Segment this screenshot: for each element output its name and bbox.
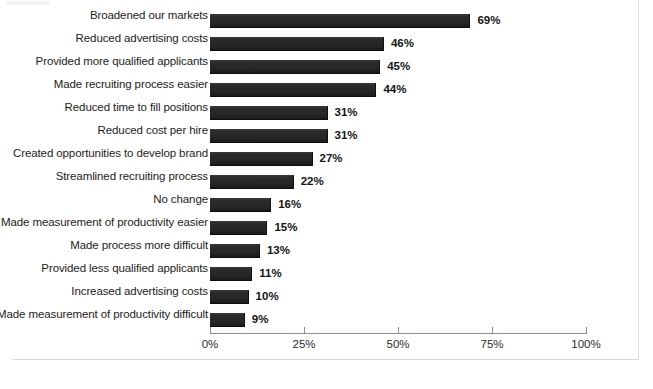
bar-value-label: 31%: [335, 106, 358, 119]
bar-row: Made measurement of productivity easier1…: [0, 215, 653, 238]
bar-row: Broadened our markets69%: [0, 8, 653, 31]
bar: [210, 152, 313, 165]
bar-value-label: 9%: [252, 313, 269, 326]
x-axis-tick-label: 100%: [571, 337, 600, 351]
bar-row: Provided more qualified applicants45%: [0, 54, 653, 77]
bar-row: Provided less qualified applicants11%: [0, 261, 653, 284]
bar: [210, 267, 252, 280]
x-axis-tick: [492, 327, 493, 334]
category-label: Reduced cost per hire: [0, 123, 208, 137]
category-label: Reduced advertising costs: [0, 31, 208, 45]
bar-value-label: 69%: [477, 14, 500, 27]
bar-value-label: 31%: [335, 129, 358, 142]
bar: [210, 244, 260, 257]
bar: [210, 221, 267, 234]
category-label: Provided more qualified applicants: [0, 54, 208, 68]
bar-value-label: 15%: [274, 221, 297, 234]
category-label: Made process more difficult: [0, 238, 208, 252]
category-label: Reduced time to fill positions: [0, 100, 208, 114]
bar: [210, 198, 271, 211]
x-axis-tick: [304, 327, 305, 334]
x-axis-tick-label: 0%: [202, 337, 219, 351]
bar-value-label: 22%: [301, 175, 324, 188]
bar-row: Made recruiting process easier44%: [0, 77, 653, 100]
bar-value-label: 46%: [391, 37, 414, 50]
bar-row: No change16%: [0, 192, 653, 215]
bar: [210, 106, 328, 119]
bar: [210, 37, 384, 50]
category-label: Increased advertising costs: [0, 284, 208, 298]
bar: [210, 175, 294, 188]
bar-row: Made process more difficult13%: [0, 238, 653, 261]
category-label: Made measurement of productivity difficu…: [0, 307, 208, 321]
bar: [210, 129, 328, 142]
chart-figure: Broadened our markets69%Reduced advertis…: [0, 0, 653, 389]
bar: [210, 83, 376, 96]
bar: [210, 14, 470, 27]
bar-value-label: 45%: [387, 60, 410, 73]
bar: [210, 60, 380, 73]
x-axis-tick: [586, 327, 587, 334]
bar-row: Reduced cost per hire31%: [0, 123, 653, 146]
plot-area: Broadened our markets69%Reduced advertis…: [0, 0, 653, 389]
bar-value-label: 16%: [278, 198, 301, 211]
bar-value-label: 44%: [383, 83, 406, 96]
bar-row: Streamlined recruiting process22%: [0, 169, 653, 192]
x-axis-tick: [210, 327, 211, 334]
category-label: No change: [0, 192, 208, 206]
bar-value-label: 13%: [267, 244, 290, 257]
category-label: Streamlined recruiting process: [0, 169, 208, 183]
category-label: Created opportunities to develop brand: [0, 146, 208, 160]
bar: [210, 290, 249, 303]
bar-value-label: 11%: [259, 267, 281, 280]
category-label: Made measurement of productivity easier: [0, 215, 208, 229]
bar-row: Made measurement of productivity difficu…: [0, 307, 653, 330]
category-label: Broadened our markets: [0, 8, 208, 22]
bar-row: Created opportunities to develop brand27…: [0, 146, 653, 169]
x-axis-tick-label: 75%: [480, 337, 503, 351]
bar-value-label: 10%: [256, 290, 279, 303]
bar-value-label: 27%: [320, 152, 343, 165]
bar: [210, 313, 245, 326]
x-axis-tick-label: 50%: [386, 337, 409, 351]
bar-row: Increased advertising costs10%: [0, 284, 653, 307]
x-axis-tick-label: 25%: [292, 337, 315, 351]
bar-row: Reduced time to fill positions31%: [0, 100, 653, 123]
bar-row: Reduced advertising costs46%: [0, 31, 653, 54]
category-label: Made recruiting process easier: [0, 77, 208, 91]
category-label: Provided less qualified applicants: [0, 261, 208, 275]
x-axis-tick: [398, 327, 399, 334]
